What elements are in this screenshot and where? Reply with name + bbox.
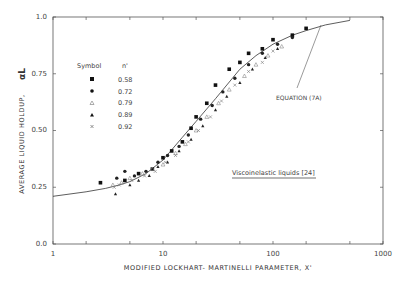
data-point — [189, 126, 193, 130]
data-point — [233, 77, 236, 80]
y-tick-050: 0.50 — [31, 126, 47, 134]
data-point — [115, 176, 118, 179]
legend-header-n: n' — [122, 62, 128, 70]
data-point — [144, 170, 147, 173]
x-tick-100: 100 — [266, 250, 279, 258]
y-tick-1: 1.0 — [36, 13, 47, 21]
legend-header-symbol: Symbol — [77, 62, 101, 70]
data-point — [217, 101, 221, 105]
data-point — [205, 101, 209, 105]
y-tick-075: 0.75 — [31, 70, 47, 78]
data-point — [276, 43, 279, 46]
data-point — [238, 61, 242, 65]
legend-circle-icon — [90, 89, 94, 93]
y-axis-symbol: αL — [17, 68, 27, 80]
data-point — [123, 170, 126, 173]
legend-open-triangle-icon — [90, 101, 94, 105]
data-point — [133, 174, 136, 177]
data-point — [137, 172, 141, 176]
legend-value-058: 0.58 — [118, 76, 132, 84]
data-point — [225, 95, 228, 98]
equation-label: EQUATION (7A) — [276, 94, 322, 101]
data-point — [170, 149, 174, 153]
data-point — [209, 115, 212, 118]
data-point — [271, 38, 275, 42]
data-point — [148, 174, 151, 177]
y-tick-025: 0.25 — [31, 183, 47, 191]
data-point — [220, 99, 223, 102]
data-point — [164, 161, 167, 164]
data-point — [280, 45, 284, 49]
data-point — [128, 183, 131, 186]
legend-square-icon — [90, 77, 94, 81]
data-point — [137, 179, 140, 182]
data-point — [247, 70, 250, 73]
x-axis-label: MODIFIED LOCKHART- MARTINELLI PARAMETER,… — [124, 264, 312, 272]
data-point — [128, 176, 132, 180]
data-point — [261, 52, 264, 55]
data-point — [251, 67, 254, 70]
data-point — [141, 172, 145, 176]
data-point — [291, 36, 294, 39]
legend-value-079: 0.79 — [118, 99, 132, 107]
legend: Symbol n' 0.58 0.72 0.79 0.89 0.92 — [77, 62, 132, 131]
data-point — [227, 88, 231, 92]
data-point — [254, 63, 258, 67]
data-point — [123, 179, 127, 183]
data-point — [99, 181, 103, 185]
data-point — [304, 27, 308, 31]
data-point — [156, 165, 159, 168]
chart-canvas: 1 10 100 1000 0.0 0.25 0.50 0.75 1.0 MOD… — [0, 0, 403, 282]
legend-filled-triangle-icon — [90, 113, 94, 117]
plot-axes — [53, 17, 383, 244]
data-point — [214, 83, 218, 87]
legend-value-072: 0.72 — [118, 88, 132, 96]
data-point — [238, 81, 241, 84]
data-point — [177, 145, 180, 148]
data-point — [114, 192, 117, 195]
legend-value-092: 0.92 — [118, 123, 132, 131]
data-point — [154, 170, 157, 173]
data-point — [187, 133, 190, 136]
data-point — [221, 90, 224, 93]
data-point — [266, 54, 270, 58]
data-point — [272, 50, 275, 53]
x-tick-1000: 1000 — [374, 250, 392, 258]
data-point — [166, 154, 169, 157]
data-point — [276, 47, 279, 50]
y-tick-0: 0.0 — [36, 240, 47, 248]
data-point — [181, 140, 185, 144]
data-point — [261, 47, 265, 51]
data-point — [247, 52, 251, 56]
data-point — [247, 63, 250, 66]
y-axis-label: AVERAGE LIQUID HOLDUP, — [18, 94, 26, 193]
data-point — [205, 115, 209, 119]
equation-pointer-line — [297, 25, 321, 88]
data-point — [243, 74, 247, 78]
data-point — [161, 156, 165, 160]
legend-value-089: 0.89 — [118, 111, 132, 119]
data-point — [214, 108, 217, 111]
data-point — [199, 117, 202, 120]
viscoinelastic-label: Viscoinelastic liquids [24] — [232, 169, 315, 177]
data-point — [194, 115, 198, 119]
data-point — [189, 138, 192, 141]
data-point — [177, 149, 180, 152]
data-point — [233, 84, 236, 87]
data-point — [187, 140, 190, 143]
data-point — [210, 104, 213, 107]
data-point — [201, 124, 204, 127]
x-tick-10: 10 — [159, 250, 168, 258]
data-point — [156, 161, 159, 164]
legend-cross-icon — [91, 125, 94, 128]
data-point — [143, 174, 146, 177]
data-point — [227, 67, 231, 71]
data-point — [261, 61, 264, 64]
x-tick-1: 1 — [51, 250, 55, 258]
